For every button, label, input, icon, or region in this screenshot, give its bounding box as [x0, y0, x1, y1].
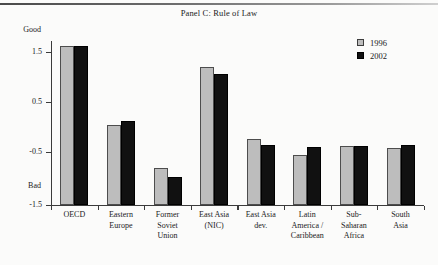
bar-1996-east-asia-nic: [200, 67, 214, 205]
chart-title: Panel C: Rule of Law: [0, 8, 438, 18]
scan-artifact-rule: [0, 3, 438, 5]
bar-2002-south-asia: [401, 145, 415, 205]
bar-1996-latin-america-caribbean: [293, 155, 307, 205]
bar-2002-eastern-europe: [121, 121, 135, 205]
axis-annotation-bad: Bad: [0, 181, 41, 190]
bar-2002-east-asia-dev: [261, 145, 275, 205]
y-tick-label: -0.5: [0, 147, 42, 156]
plot-area: [51, 46, 424, 205]
bar-1996-sub-saharan-africa: [340, 146, 354, 205]
bar-1996-south-asia: [387, 148, 401, 205]
legend-swatch-icon-2002: [357, 52, 364, 59]
bar-1996-oecd: [60, 46, 74, 205]
legend: 1996 2002: [357, 36, 387, 62]
x-axis-label-south-asia: South Asia: [367, 210, 434, 231]
legend-label-1996: 1996: [370, 38, 387, 48]
bar-2002-former-soviet-union: [168, 177, 182, 205]
legend-item-2002: 2002: [357, 49, 387, 62]
legend-swatch-icon-1996: [357, 39, 364, 46]
y-axis-labels: Good Bad: [0, 0, 45, 265]
figure-panel-c: Panel C: Rule of Law Good Bad 1.5 0.5 -0…: [0, 0, 438, 265]
bar-2002-latin-america-caribbean: [307, 147, 321, 205]
legend-item-1996: 1996: [357, 36, 387, 49]
y-tick-label: -1.5: [0, 200, 42, 209]
y-tick-label: 1.5: [0, 47, 42, 56]
bar-1996-former-soviet-union: [154, 168, 168, 205]
y-tick-label: 0.5: [0, 97, 42, 106]
bar-2002-sub-saharan-africa: [354, 146, 368, 205]
legend-label-2002: 2002: [370, 51, 387, 61]
bar-2002-east-asia-nic: [214, 74, 228, 205]
axis-annotation-good: Good: [0, 25, 41, 34]
bar-1996-eastern-europe: [107, 125, 121, 205]
bar-2002-oecd: [74, 46, 88, 205]
bar-1996-east-asia-dev: [247, 139, 261, 205]
